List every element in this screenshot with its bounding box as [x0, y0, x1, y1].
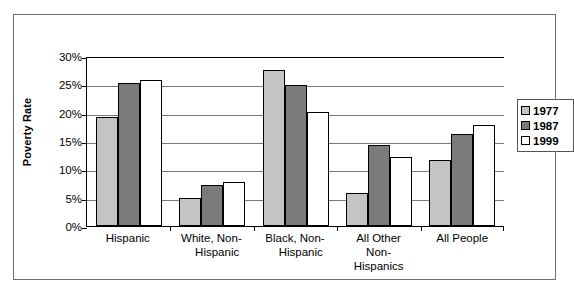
- y-tick-label: 20%: [42, 108, 82, 120]
- bar-1999-all-people[interactable]: [473, 125, 495, 226]
- bar-groups-layer: [87, 58, 504, 226]
- x-axis-label-line: Hispanic: [172, 245, 252, 259]
- y-tick-label: 30%: [42, 51, 82, 63]
- chart-frame: Poverty Rate 0%5%10%15%20%25%30% Hispani…: [13, 14, 556, 280]
- legend-label: 1977: [533, 105, 559, 117]
- legend-item-1977[interactable]: 1977: [521, 103, 570, 118]
- bar-1987-all-other-non-hispanics[interactable]: [368, 145, 390, 226]
- bar-1987-white-non-hispanic[interactable]: [201, 185, 223, 226]
- bar-1977-hispanic[interactable]: [96, 117, 118, 226]
- x-axis-label-line: Non-: [339, 245, 419, 259]
- legend-item-1987[interactable]: 1987: [521, 118, 570, 133]
- x-axis-label-line: Hispanics: [339, 259, 419, 273]
- y-axis-tick-labels: 0%5%10%15%20%25%30%: [42, 15, 82, 296]
- x-axis-label-line: All People: [422, 231, 502, 245]
- bar-1999-all-other-non-hispanics[interactable]: [390, 157, 412, 226]
- bar-1977-black-non-hispanic[interactable]: [263, 70, 285, 226]
- bar-1987-all-people[interactable]: [451, 134, 473, 226]
- x-axis-category-labels: HispanicWhite, Non-HispanicBlack, Non-Hi…: [86, 231, 504, 287]
- bar-1999-white-non-hispanic[interactable]: [223, 182, 245, 226]
- bar-1999-hispanic[interactable]: [140, 80, 162, 226]
- x-axis-label-line: Black, Non-: [255, 231, 335, 245]
- bar-group: [337, 58, 420, 226]
- bar-group-bars: [87, 58, 170, 226]
- x-axis-label-line: All Other: [339, 231, 419, 245]
- bar-1999-black-non-hispanic[interactable]: [307, 112, 329, 226]
- legend-swatch-icon: [521, 136, 530, 145]
- legend-swatch-icon: [521, 106, 530, 115]
- bar-group: [87, 58, 170, 226]
- y-tick-label: 5%: [42, 193, 82, 205]
- legend-label: 1999: [533, 135, 559, 147]
- x-axis-label-line: White, Non-: [172, 231, 252, 245]
- x-axis-label-line: Hispanic: [88, 231, 168, 245]
- legend-swatch-icon: [521, 121, 530, 130]
- y-axis-title: Poverty Rate: [21, 82, 33, 182]
- x-axis-label: All OtherNon-Hispanics: [337, 231, 421, 287]
- bar-group-bars: [421, 58, 504, 226]
- y-tick-label: 10%: [42, 164, 82, 176]
- bar-group-bars: [337, 58, 420, 226]
- bar-group: [254, 58, 337, 226]
- x-axis-label-line: Hispanic: [255, 245, 335, 259]
- bar-1987-hispanic[interactable]: [118, 83, 140, 226]
- legend-item-1999[interactable]: 1999: [521, 133, 570, 148]
- x-axis-label: White, Non-Hispanic: [170, 231, 254, 287]
- x-axis-label: Black, Non-Hispanic: [253, 231, 337, 287]
- y-tick-label: 0%: [42, 221, 82, 233]
- bar-1977-white-non-hispanic[interactable]: [179, 198, 201, 226]
- legend-label: 1987: [533, 120, 559, 132]
- bar-1977-all-people[interactable]: [429, 160, 451, 226]
- bar-1977-all-other-non-hispanics[interactable]: [346, 193, 368, 226]
- x-axis-label: Hispanic: [86, 231, 170, 287]
- plot-area: [86, 57, 504, 227]
- bar-group-bars: [254, 58, 337, 226]
- y-tick-label: 25%: [42, 79, 82, 91]
- y-tick-label: 15%: [42, 136, 82, 148]
- bar-group-bars: [170, 58, 253, 226]
- bar-1987-black-non-hispanic[interactable]: [285, 85, 307, 226]
- chart-legend: 197719871999: [517, 99, 574, 152]
- y-tick-mark: [82, 228, 87, 229]
- bar-group: [421, 58, 504, 226]
- x-axis-label: All People: [420, 231, 504, 287]
- bar-group: [170, 58, 253, 226]
